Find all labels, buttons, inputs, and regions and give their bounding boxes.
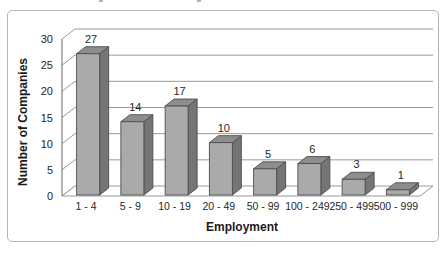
y-tick-label: 15	[41, 112, 53, 124]
chart-svg: 271 - 4145 - 91710 - 191020 - 49550 - 99…	[0, 0, 445, 254]
x-tick-label: 500 - 999	[374, 200, 419, 212]
bar-value-label: 5	[265, 148, 271, 160]
x-tick-label: 20 - 49	[203, 200, 236, 212]
y-tick-label: 10	[41, 138, 53, 150]
bar-front-face	[254, 169, 277, 195]
bar-side-face	[100, 47, 109, 195]
screenshot-root: 271 - 4145 - 91710 - 191020 - 49550 - 99…	[0, 0, 445, 254]
y-tick-label: 5	[47, 164, 53, 176]
bar-value-label: 3	[354, 158, 360, 170]
y-tick-label: 20	[41, 85, 53, 97]
bar-value-label: 1	[398, 169, 404, 181]
grid-connector	[62, 134, 75, 144]
x-tick-label: 10 - 19	[158, 200, 191, 212]
x-tick-label: 1 - 4	[76, 200, 97, 212]
bar-front-face	[165, 106, 188, 195]
x-tick-label: 250 - 499	[329, 200, 374, 212]
y-tick-label: 30	[41, 33, 53, 45]
x-axis-title: Employment	[206, 220, 278, 234]
bar-side-face	[188, 99, 197, 195]
bar-side-face	[144, 115, 153, 195]
bar-front-face	[342, 179, 365, 195]
bar-value-label: 14	[129, 101, 141, 113]
grid-connector	[62, 81, 75, 91]
y-axis-title: Number of Companies	[16, 58, 30, 186]
chart-floor	[62, 186, 433, 196]
bar-front-face	[386, 190, 409, 195]
bar-value-label: 6	[309, 143, 315, 155]
y-tick-label: 25	[41, 59, 53, 71]
x-tick-label: 50 - 99	[247, 200, 280, 212]
bar-front-face	[298, 164, 321, 195]
bar-front-face	[209, 143, 232, 195]
bar-side-face	[232, 136, 241, 195]
grid-connector	[62, 55, 75, 65]
bar-front-face	[121, 122, 144, 195]
bar-value-label: 17	[174, 85, 186, 97]
bar-value-label: 10	[218, 122, 230, 134]
bar-front-face	[77, 54, 100, 195]
grid-connector	[62, 160, 75, 170]
x-tick-label: 5 - 9	[120, 200, 141, 212]
y-tick-label: 0	[47, 190, 53, 202]
bar-value-label: 27	[85, 33, 97, 45]
grid-connector	[62, 108, 75, 118]
x-tick-label: 100 - 249	[285, 200, 330, 212]
grid-connector	[62, 29, 75, 39]
